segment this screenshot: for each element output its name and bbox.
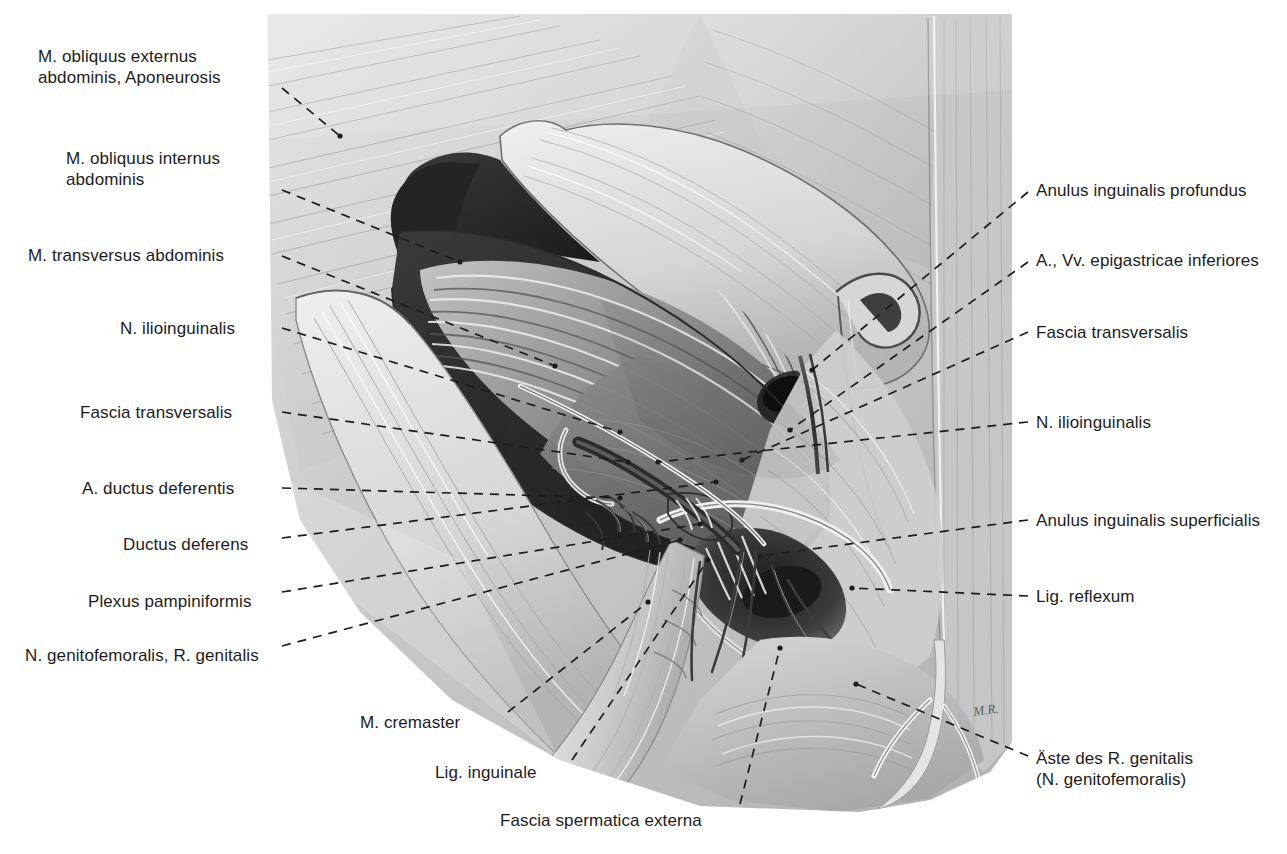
label-line: Lig. reflexum <box>1036 586 1176 607</box>
label-a-vv-epigastricae-inferiores: A., Vv. epigastricae inferiores <box>1036 250 1286 271</box>
leader-line-a-ductus-deferentis <box>282 488 620 498</box>
label-lig-inguinale: Lig. inguinale <box>435 762 565 783</box>
label-line: N. ilioinguinalis <box>1036 412 1186 433</box>
leader-endpoint-a-ductus-deferentis <box>617 495 622 500</box>
label-line: A., Vv. epigastricae inferiores <box>1036 250 1286 271</box>
leader-line-fascia-transversalis-right <box>742 332 1028 460</box>
leader-endpoint-fascia-transversalis-right <box>739 457 744 462</box>
label-plexus-pampiniformis: Plexus pampiniformis <box>88 591 270 612</box>
label-fascia-transversalis-left: Fascia transversalis <box>80 402 270 423</box>
label-lig-reflexum: Lig. reflexum <box>1036 586 1176 607</box>
leader-line-n-ilioinguinalis-left <box>282 328 620 432</box>
label-line: M. cremaster <box>360 712 500 733</box>
label-line: Fascia transversalis <box>80 402 270 423</box>
leader-endpoint-fascia-spermatica-externa <box>777 645 782 650</box>
label-fascia-spermatica-externa: Fascia spermatica externa <box>500 810 732 831</box>
label-aeste-des-r-genitalis: Äste des R. genitalis(N. genitofemoralis… <box>1036 748 1231 790</box>
label-n-ilioinguinalis-right: N. ilioinguinalis <box>1036 412 1186 433</box>
label-line: abdominis <box>66 169 270 190</box>
label-line: M. transversus abdominis <box>28 245 270 266</box>
leader-endpoint-lig-inguinale <box>705 557 710 562</box>
leader-line-m-cremaster <box>508 602 648 712</box>
label-line: M. obliquus externus <box>38 46 270 67</box>
leader-line-lig-reflexum <box>852 588 1028 596</box>
leader-endpoint-obliquus-externus-aponeurosis <box>337 133 342 138</box>
label-obliquus-internus: M. obliquus internusabdominis <box>66 148 270 190</box>
leader-endpoint-n-genitofemoralis-r-genitalis <box>677 537 682 542</box>
leader-endpoint-transversus-abdominis <box>552 363 557 368</box>
label-m-cremaster: M. cremaster <box>360 712 500 733</box>
leader-line-lig-inguinale <box>572 560 708 760</box>
leader-line-a-vv-epigastricae-inferiores <box>790 262 1028 430</box>
label-fascia-transversalis-right: Fascia transversalis <box>1036 322 1232 343</box>
leader-line-transversus-abdominis <box>282 256 555 366</box>
label-line: Ductus deferens <box>123 534 270 555</box>
leader-endpoint-m-cremaster <box>645 599 650 604</box>
leader-endpoint-aeste-des-r-genitalis <box>853 681 858 686</box>
label-line: Fascia spermatica externa <box>500 810 732 831</box>
leader-endpoint-anulus-inguinalis-profundus <box>809 367 814 372</box>
figure-canvas: M.R. M. obliquus externusabdominis, Apon… <box>0 0 1287 854</box>
leader-endpoint-n-ilioinguinalis-right <box>655 459 660 464</box>
leader-endpoint-fascia-transversalis-left <box>625 459 630 464</box>
label-ductus-deferens: Ductus deferens <box>123 534 270 555</box>
label-line: abdominis, Aponeurosis <box>38 67 270 88</box>
label-line: Anulus inguinalis superficialis <box>1036 510 1286 531</box>
label-anulus-inguinalis-superficialis: Anulus inguinalis superficialis <box>1036 510 1286 531</box>
label-line: M. obliquus internus <box>66 148 270 169</box>
leader-line-obliquus-externus-aponeurosis <box>282 88 340 136</box>
label-anulus-inguinalis-profundus: Anulus inguinalis profundus <box>1036 180 1281 201</box>
label-obliquus-externus-aponeurosis: M. obliquus externusabdominis, Aponeuros… <box>38 46 270 88</box>
leader-line-anulus-inguinalis-profundus <box>812 192 1028 370</box>
leader-line-fascia-transversalis-left <box>282 412 628 462</box>
leader-endpoint-lig-reflexum <box>849 585 854 590</box>
leader-endpoint-a-vv-epigastricae-inferiores <box>787 427 792 432</box>
leader-line-n-genitofemoralis-r-genitalis <box>282 540 680 646</box>
label-line: Anulus inguinalis profundus <box>1036 180 1281 201</box>
leader-line-obliquus-internus <box>282 190 460 262</box>
label-line: A. ductus deferentis <box>82 478 270 499</box>
leader-line-fascia-spermatica-externa <box>740 648 780 804</box>
leader-line-aeste-des-r-genitalis <box>856 684 1028 756</box>
leader-endpoint-obliquus-internus <box>457 259 462 264</box>
leader-line-anulus-inguinalis-superficialis <box>760 520 1028 556</box>
label-a-ductus-deferentis: A. ductus deferentis <box>82 478 270 499</box>
label-line: N. genitofemoralis, R. genitalis <box>25 645 270 666</box>
leader-line-plexus-pampiniformis <box>282 524 700 592</box>
leader-endpoint-anulus-inguinalis-superficialis <box>757 553 762 558</box>
label-n-genitofemoralis-r-genitalis: N. genitofemoralis, R. genitalis <box>25 645 270 666</box>
leader-endpoint-n-ilioinguinalis-left <box>617 429 622 434</box>
label-line: (N. genitofemoralis) <box>1036 769 1231 790</box>
label-line: Plexus pampiniformis <box>88 591 270 612</box>
label-transversus-abdominis: M. transversus abdominis <box>28 245 270 266</box>
label-line: N. ilioinguinalis <box>120 318 270 339</box>
label-line: Lig. inguinale <box>435 762 565 783</box>
leader-endpoint-plexus-pampiniformis <box>697 521 702 526</box>
leader-line-n-ilioinguinalis-right <box>658 422 1028 462</box>
leader-endpoint-ductus-deferens <box>713 479 718 484</box>
label-line: Fascia transversalis <box>1036 322 1232 343</box>
label-line: Äste des R. genitalis <box>1036 748 1231 769</box>
label-n-ilioinguinalis-left: N. ilioinguinalis <box>120 318 270 339</box>
